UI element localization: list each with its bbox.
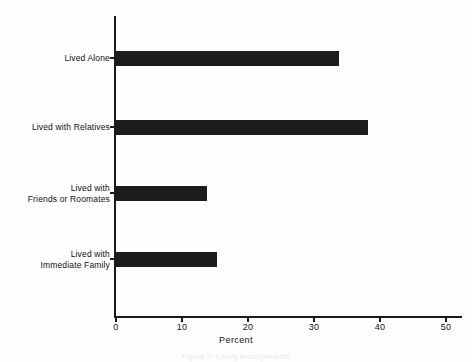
figure-caption: Figure 3. Living Arrangements	[0, 352, 472, 362]
category-label: Lived with Relatives	[0, 122, 110, 133]
x-axis-tick-label: 40	[360, 322, 400, 332]
x-axis-tick-label: 30	[294, 322, 334, 332]
category-label: Lived with Immediate Family	[0, 249, 110, 270]
bar-chart-figure: Lived AloneLived with RelativesLived wit…	[0, 0, 472, 362]
y-axis-tick	[110, 192, 115, 194]
x-axis-title: Percent	[0, 335, 472, 345]
y-axis-tick	[110, 258, 115, 260]
bar	[116, 186, 207, 201]
category-label: Lived with Friends or Roomates	[0, 183, 110, 204]
x-axis-tick-label: 10	[162, 322, 202, 332]
bar	[116, 120, 368, 135]
x-axis-tick-label: 0	[96, 322, 136, 332]
category-label: Lived Alone	[0, 53, 110, 64]
x-axis-line	[114, 316, 462, 318]
bar	[116, 51, 339, 66]
y-axis-tick	[110, 57, 115, 59]
x-axis-tick-label: 20	[228, 322, 268, 332]
bar	[116, 252, 217, 267]
x-axis-tick-label: 50	[426, 322, 466, 332]
y-axis-tick	[110, 126, 115, 128]
